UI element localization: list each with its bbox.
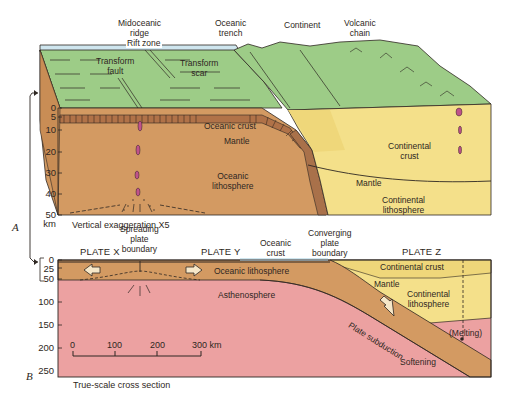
panel-label-b: B [26, 371, 33, 381]
label-mantle-a: Mantle [224, 136, 250, 146]
label-transform-fault: Transform fault [96, 56, 134, 76]
scale-tick-300: 300 km [192, 340, 222, 350]
label-oceanic-lithosphere-a: Oceanic lithosphere [212, 171, 254, 191]
depth-a-tick-40: 40 [38, 189, 56, 199]
depth-a-tick-5: 5 [38, 112, 56, 122]
depth-b-tick-200: 200 [28, 343, 54, 353]
tectonics-diagram [0, 0, 511, 394]
label-continental-lithosphere-b: Continental lithosphere [407, 289, 450, 309]
label-oceanic-trench: Oceanic trench [215, 18, 246, 38]
depth-b-tick-150: 150 [28, 320, 54, 330]
scale-tick-100: 100 [107, 340, 122, 350]
label-melting: (Melting) [449, 328, 482, 338]
label-mantle-b: Mantle [374, 279, 400, 289]
label-rift-zone: Rift zone [126, 38, 162, 48]
label-plate-x: PLATE X [80, 247, 120, 257]
label-oceanic-lithosphere-b: Oceanic lithosphere [214, 266, 289, 276]
label-continent: Continent [284, 20, 320, 30]
panel-label-a: A [12, 222, 19, 232]
depth-a-tick-20: 20 [38, 147, 56, 157]
caption-true-scale: True-scale cross section [73, 380, 170, 390]
label-continental-lithosphere-a: Continental lithosphere [382, 195, 425, 215]
label-continental-crust-b: Continental crust [380, 262, 444, 272]
label-plate-z: PLATE Z [402, 247, 441, 257]
panel-connector-bracket [30, 93, 38, 262]
label-spreading-boundary: Spreading plate boundary [120, 224, 159, 254]
label-plate-y: PLATE Y [201, 247, 241, 257]
label-oceanic-crust-b: Oceanic crust [260, 238, 291, 258]
label-transform-scar: Transform scar [180, 58, 218, 78]
depth-a-unit: km [38, 219, 56, 229]
label-softening: Softening [400, 357, 436, 367]
label-midoceanic-ridge: Midoceanic ridge [118, 18, 161, 38]
label-asthenosphere: Asthenosphere [218, 290, 275, 300]
label-continental-crust-a: Continental crust [388, 141, 431, 161]
label-mantle-right-a: Mantle [356, 178, 382, 188]
depth-b-tick-100: 100 [28, 297, 54, 307]
depth-a-tick-10: 10 [38, 125, 56, 135]
depth-b-tick-50: 50 [30, 274, 54, 284]
label-converging-boundary: Converging plate boundary [308, 228, 351, 258]
depth-a-tick-30: 30 [38, 168, 56, 178]
label-volcanic-chain: Volcanic chain [344, 18, 376, 38]
label-oceanic-crust-a: Oceanic crust [204, 121, 256, 131]
scale-tick-200: 200 [150, 340, 165, 350]
scale-tick-0: 0 [70, 340, 75, 350]
